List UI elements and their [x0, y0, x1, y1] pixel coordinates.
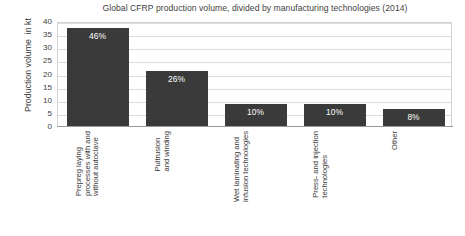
y-axis-tick-label: 35: [43, 31, 52, 39]
bar-value-label: 26%: [146, 74, 208, 84]
x-axis-category-label: Press- and injection technologies: [312, 131, 329, 198]
chart-title: Global CFRP production volume, divided b…: [57, 3, 453, 13]
y-axis-tick-label: 25: [43, 57, 52, 65]
y-axis-tick-label: 0: [48, 123, 52, 131]
bar[interactable]: 10%: [225, 104, 287, 126]
bar-value-label: 46%: [67, 31, 129, 41]
x-axis-category-label: Wet laminating and infusion technologies: [233, 131, 250, 202]
y-axis-tick-label: 5: [48, 110, 52, 118]
x-axis-line: [57, 126, 453, 127]
gridline: [58, 23, 451, 24]
bar-value-label: 10%: [225, 107, 287, 117]
bar-value-label: 10%: [304, 107, 366, 117]
x-axis-category-label: Other: [391, 131, 400, 150]
x-axis-category-label: Pultrusion and winding: [154, 131, 171, 172]
x-axis-category-label: Prepreg laying processes with and withou…: [75, 131, 101, 196]
bar-chart: Global CFRP production volume, divided b…: [0, 0, 465, 236]
y-axis-tick-label: 40: [43, 18, 52, 26]
y-axis-tick-label: 30: [43, 44, 52, 52]
y-axis-tick-label: 20: [43, 71, 52, 79]
bar-value-label: 8%: [383, 112, 445, 122]
y-axis-tick-label: 15: [43, 84, 52, 92]
y-axis-tick-label: 10: [43, 97, 52, 105]
bar[interactable]: 46%: [67, 28, 129, 126]
bar[interactable]: 8%: [383, 109, 445, 126]
bar[interactable]: 26%: [146, 71, 208, 126]
y-axis-tick-labels: 4035302520151050: [30, 22, 52, 127]
bar[interactable]: 10%: [304, 104, 366, 126]
plot-area: 46%26%10%10%8%: [57, 22, 452, 127]
